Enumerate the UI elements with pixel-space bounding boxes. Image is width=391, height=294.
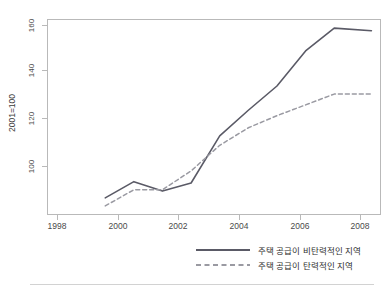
- y-tick-label-100: 100: [0, 162, 38, 171]
- x-tick-label-2008: 2008: [338, 221, 382, 231]
- x-tick-label-2006: 2006: [278, 221, 322, 231]
- y-axis-title: 2001=100: [7, 83, 17, 143]
- y-tick-label-120: 120: [0, 114, 38, 123]
- chart-figure: 2001=100 160 140 120 100 1998 2000 2002 …: [0, 0, 391, 294]
- y-tick-label-140: 140: [0, 66, 38, 75]
- legend-item-elastic: 주택 공급이 탄력적인 지역: [196, 257, 388, 272]
- legend-label-inelastic: 주택 공급이 비탄력적인 지역: [258, 244, 361, 256]
- legend-label-elastic: 주택 공급이 탄력적인 지역: [258, 259, 353, 271]
- legend-swatch-dashed-icon: [196, 260, 250, 270]
- chart-legend: 주택 공급이 비탄력적인 지역 주택 공급이 탄력적인 지역: [196, 242, 388, 272]
- plot-area: [47, 19, 381, 215]
- series-line-elastic: [105, 94, 371, 206]
- series-canvas: [48, 20, 380, 214]
- footer-divider: [30, 284, 374, 285]
- x-tick-mark-2006: [300, 215, 301, 220]
- x-tick-label-2004: 2004: [217, 221, 261, 231]
- legend-item-inelastic: 주택 공급이 비탄력적인 지역: [196, 242, 388, 257]
- x-tick-label-2002: 2002: [156, 221, 200, 231]
- y-tick-label-160: 160: [0, 21, 38, 30]
- x-tick-mark-2004: [239, 215, 240, 220]
- x-tick-mark-2002: [178, 215, 179, 220]
- footer-caption: [60, 287, 380, 294]
- series-line-inelastic: [105, 28, 371, 198]
- x-tick-mark-2000: [118, 215, 119, 220]
- x-tick-label-1998: 1998: [35, 221, 79, 231]
- x-tick-mark-2008: [360, 215, 361, 220]
- x-tick-mark-1998: [57, 215, 58, 220]
- x-tick-label-2000: 2000: [96, 221, 140, 231]
- legend-swatch-solid-icon: [196, 245, 250, 255]
